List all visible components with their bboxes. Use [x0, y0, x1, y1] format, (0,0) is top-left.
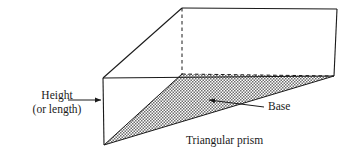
- base-label: Base: [268, 100, 290, 114]
- right-vertical-edge: [334, 9, 337, 76]
- left-vertical-edge: [103, 78, 104, 145]
- height-label: Height (or length): [26, 89, 88, 116]
- height-label-line-1: Height: [26, 89, 88, 103]
- top-face: [103, 8, 337, 78]
- triangular-prism-figure: Height (or length) Base Triangular prism: [0, 0, 358, 159]
- top-back-edge: [182, 8, 337, 9]
- figure-caption: Triangular prism: [186, 134, 263, 148]
- prism-drawing: [0, 0, 358, 159]
- height-label-line-2: (or length): [26, 103, 88, 117]
- front-slant-top-edge: [103, 8, 182, 78]
